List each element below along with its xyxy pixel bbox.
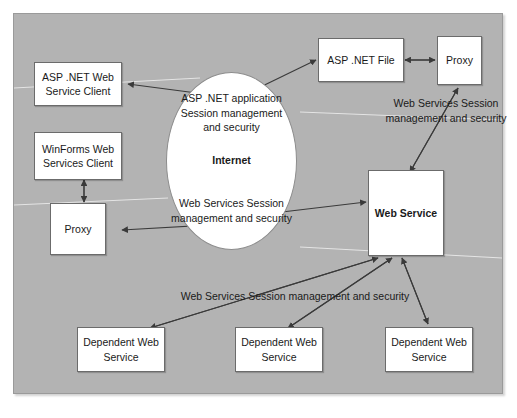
node-dependent-web-service-3[interactable]: Dependent WebService bbox=[385, 327, 473, 372]
internet-ellipse-bottom-text: Web Services Sessionmanagement and secur… bbox=[167, 196, 296, 225]
node-asp-net-file[interactable]: ASP .NET File bbox=[318, 38, 404, 82]
node-proxy-left[interactable]: Proxy bbox=[50, 203, 106, 255]
node-proxy-right[interactable]: Proxy bbox=[437, 36, 482, 85]
diagram-canvas: ASP .NET applicationSession managementan… bbox=[0, 0, 517, 418]
label-bottom-web-services-session: Web Services Session management and secu… bbox=[160, 289, 430, 304]
node-winforms-web-services-client[interactable]: WinForms WebServices Client bbox=[34, 132, 122, 180]
node-dependent-web-service-2[interactable]: Dependent WebService bbox=[235, 327, 323, 372]
node-dependent-web-service-1[interactable]: Dependent WebService bbox=[77, 327, 165, 372]
node-asp-net-web-service-client[interactable]: ASP .NET WebService Client bbox=[34, 62, 122, 106]
internet-ellipse-center-label: Internet bbox=[167, 153, 296, 168]
internet-ellipse-top-text: ASP .NET applicationSession managementan… bbox=[167, 91, 296, 135]
internet-ellipse: ASP .NET applicationSession managementan… bbox=[166, 72, 297, 250]
label-right-web-services-session: Web Services Sessionmanagement and secur… bbox=[376, 96, 516, 125]
node-web-service[interactable]: Web Service bbox=[368, 170, 444, 256]
